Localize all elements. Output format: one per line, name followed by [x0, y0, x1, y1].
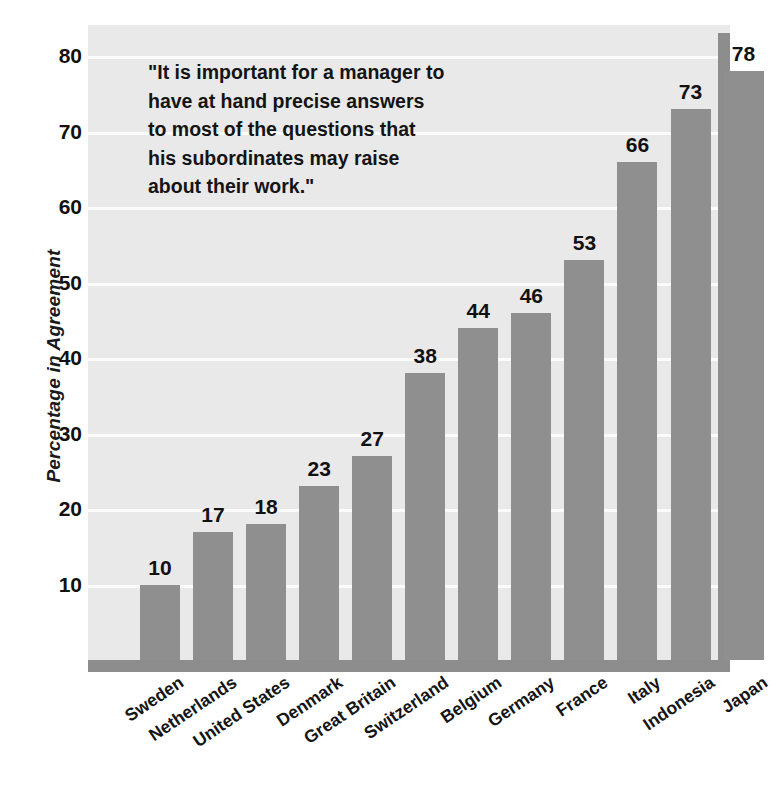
bar-value-label: 18: [234, 495, 298, 519]
bar: [671, 109, 711, 660]
y-tick-label: 50: [40, 271, 82, 295]
bar: [511, 313, 551, 660]
bar: [193, 532, 233, 660]
bar: [458, 328, 498, 660]
bar: [724, 71, 764, 660]
y-tick-label: 60: [40, 195, 82, 219]
bar-value-label: 23: [287, 457, 351, 481]
bar: [352, 456, 392, 660]
bar: [299, 486, 339, 660]
quote-line: have at hand precise answers: [148, 87, 448, 116]
bar-value-label: 53: [552, 231, 616, 255]
y-tick-label: 40: [40, 346, 82, 370]
y-tick-label: 10: [40, 573, 82, 597]
bar: [405, 373, 445, 660]
y-axis-ticks: 1020304050607080: [30, 0, 82, 800]
bar: [246, 524, 286, 660]
y-tick-label: 70: [40, 120, 82, 144]
bar-value-label: 27: [340, 427, 404, 451]
bar: [564, 260, 604, 660]
y-tick-label: 80: [40, 44, 82, 68]
x-axis-line: [88, 660, 730, 672]
bar-value-label: 46: [499, 284, 563, 308]
bar: [140, 585, 180, 661]
quote-line: "It is important for a manager to: [148, 58, 448, 87]
y-tick-label: 30: [40, 422, 82, 446]
bar-value-label: 38: [393, 344, 457, 368]
quote-annotation: "It is important for a manager tohave at…: [148, 58, 448, 201]
y-tick-label: 20: [40, 497, 82, 521]
bar: [617, 162, 657, 660]
quote-line: to most of the questions that: [148, 115, 448, 144]
x-axis-labels: SwedenNetherlandsUnited StatesDenmarkGre…: [88, 672, 730, 800]
bar-value-label: 10: [128, 556, 192, 580]
bar-value-label: 73: [659, 80, 723, 104]
quote-line: his subordinates may raise: [148, 144, 448, 173]
bar-value-label: 78: [712, 42, 773, 66]
quote-line: about their work.": [148, 172, 448, 201]
bar-value-label: 66: [605, 133, 669, 157]
